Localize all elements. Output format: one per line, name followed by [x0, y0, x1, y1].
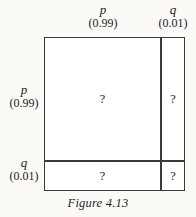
cell-q-q: ?	[162, 162, 184, 189]
column-label-p-symbol: p	[78, 3, 128, 16]
column-label-p-value: (0.99)	[78, 17, 128, 29]
column-label-q-symbol: q	[149, 3, 196, 16]
figure-container: p (0.99) q (0.01) p (0.99) q (0.01) ? ? …	[0, 0, 196, 217]
column-label-q: q (0.01)	[149, 3, 196, 29]
cell-p-p: ?	[45, 38, 160, 160]
row-label-q: q (0.01)	[2, 156, 46, 182]
figure-caption: Figure 4.13	[0, 196, 196, 211]
row-label-q-value: (0.01)	[2, 170, 46, 182]
column-label-q-value: (0.01)	[149, 17, 196, 29]
row-label-p-value: (0.99)	[2, 97, 46, 109]
probability-square: ? ? ? ?	[44, 37, 185, 191]
column-label-p: p (0.99)	[78, 3, 128, 29]
cell-q-p: ?	[45, 162, 160, 189]
row-label-q-symbol: q	[2, 156, 46, 169]
row-label-p-symbol: p	[2, 83, 46, 96]
row-label-p: p (0.99)	[2, 83, 46, 109]
cell-p-q: ?	[162, 38, 184, 160]
